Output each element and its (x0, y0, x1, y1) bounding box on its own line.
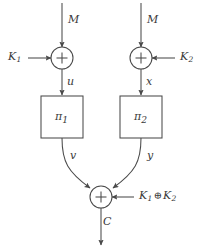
label-wire-v: v (70, 150, 76, 161)
label-wire-u: u (67, 76, 74, 87)
label-key-1: K1 (8, 51, 21, 62)
edge-box-left-to-xor-bottom (62, 138, 90, 188)
label-ciphertext-c: C (103, 216, 112, 227)
label-wire-x: x (146, 76, 152, 87)
xor-operator-icon: ⊕ (152, 190, 163, 201)
permutation-box-left-index: 1 (62, 114, 68, 125)
permutation-box-right-label: π2 (134, 111, 147, 124)
label-key-1-sub: 1 (16, 55, 21, 64)
permutation-box-right-index: 2 (141, 114, 147, 125)
edge-box-right-to-xor-bottom (113, 138, 141, 188)
label-combined-key-k2-sub: 2 (171, 194, 176, 203)
cipher-diagram: M M K1 K2 u x v y C K1⊕K2 π1 π2 (0, 0, 203, 252)
label-key-2: K2 (180, 51, 193, 62)
label-plaintext-left: M (68, 14, 79, 25)
permutation-box-left-label: π1 (55, 111, 68, 124)
label-plaintext-right: M (147, 14, 158, 25)
label-combined-key: K1⊕K2 (139, 190, 176, 201)
diagram-canvas (0, 0, 203, 252)
label-wire-y: y (147, 150, 153, 161)
label-combined-key-k1-sub: 1 (147, 194, 152, 203)
label-key-2-sub: 2 (188, 55, 193, 64)
